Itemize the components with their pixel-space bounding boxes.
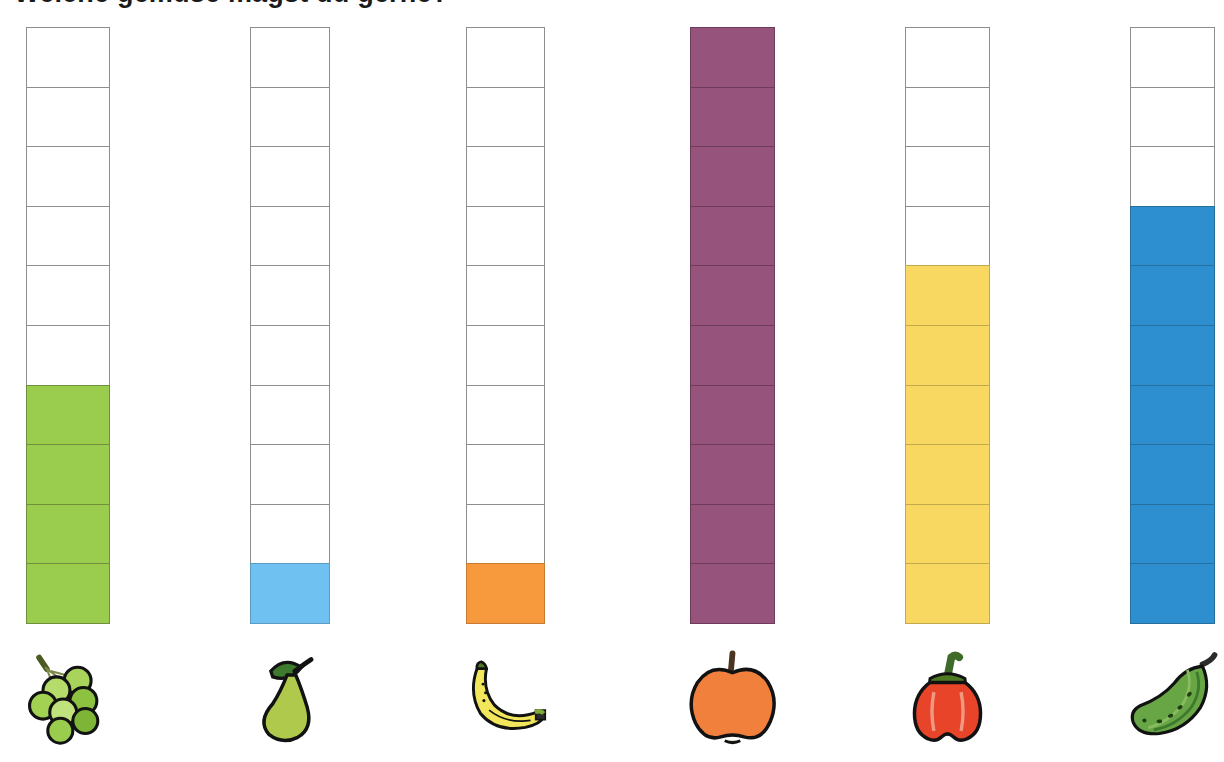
bar-cell-filled[interactable]	[690, 504, 775, 565]
bar-column-grapes[interactable]	[26, 27, 110, 633]
apple-icon	[682, 639, 783, 757]
bar-column-apple[interactable]	[690, 27, 775, 633]
bar-column-cucumber[interactable]	[1130, 27, 1215, 633]
bar-cell-empty[interactable]	[466, 385, 545, 446]
bar-cell-empty[interactable]	[250, 146, 330, 207]
pictograph-bar-chart	[0, 0, 1224, 762]
bar-cell-filled[interactable]	[905, 504, 990, 565]
bar-cell-empty[interactable]	[466, 206, 545, 267]
bar-stack	[26, 27, 110, 633]
bar-column-bell-pepper[interactable]	[905, 27, 990, 633]
bar-cell-empty[interactable]	[250, 206, 330, 267]
bar-column-banana[interactable]	[466, 27, 545, 633]
bar-cell-empty[interactable]	[26, 325, 110, 386]
bar-cell-filled[interactable]	[26, 385, 110, 446]
bar-cell-filled[interactable]	[905, 385, 990, 446]
bar-cell-empty[interactable]	[466, 27, 545, 88]
bar-stack	[690, 27, 775, 633]
bar-cell-filled[interactable]	[690, 385, 775, 446]
bar-cell-filled[interactable]	[1130, 206, 1215, 267]
bar-cell-empty[interactable]	[466, 325, 545, 386]
bar-cell-empty[interactable]	[250, 265, 330, 326]
bar-stack	[250, 27, 330, 633]
bar-cell-empty[interactable]	[905, 87, 990, 148]
bar-cell-empty[interactable]	[250, 444, 330, 505]
bar-cell-filled[interactable]	[905, 265, 990, 326]
bar-cell-empty[interactable]	[250, 27, 330, 88]
bar-cell-filled[interactable]	[690, 265, 775, 326]
bar-cell-empty[interactable]	[250, 87, 330, 148]
bar-cell-empty[interactable]	[26, 87, 110, 148]
bar-cell-filled[interactable]	[26, 444, 110, 505]
bar-cell-empty[interactable]	[466, 87, 545, 148]
bar-cell-empty[interactable]	[1130, 27, 1215, 88]
bar-cell-filled[interactable]	[1130, 444, 1215, 505]
bar-cell-empty[interactable]	[1130, 87, 1215, 148]
bar-stack	[1130, 27, 1215, 633]
bar-cell-filled[interactable]	[690, 444, 775, 505]
bar-column-pear[interactable]	[250, 27, 330, 633]
bar-cell-filled[interactable]	[690, 87, 775, 148]
bar-cell-empty[interactable]	[250, 504, 330, 565]
bar-cell-filled[interactable]	[905, 563, 990, 624]
pear-icon	[242, 639, 338, 757]
bar-stack	[466, 27, 545, 633]
bar-cell-filled[interactable]	[690, 146, 775, 207]
bar-cell-filled[interactable]	[1130, 265, 1215, 326]
bar-cell-filled[interactable]	[690, 206, 775, 267]
bar-cell-filled[interactable]	[690, 27, 775, 88]
grapes-icon	[18, 639, 118, 757]
bar-cell-empty[interactable]	[250, 385, 330, 446]
bar-cell-filled[interactable]	[26, 563, 110, 624]
bar-cell-filled[interactable]	[250, 563, 330, 624]
bar-cell-empty[interactable]	[26, 206, 110, 267]
bar-cell-filled[interactable]	[1130, 385, 1215, 446]
bar-cell-filled[interactable]	[26, 504, 110, 565]
bar-cell-empty[interactable]	[905, 206, 990, 267]
bar-cell-filled[interactable]	[905, 325, 990, 386]
bar-cell-empty[interactable]	[26, 265, 110, 326]
bar-cell-filled[interactable]	[905, 444, 990, 505]
bar-cell-empty[interactable]	[26, 27, 110, 88]
bar-cell-filled[interactable]	[1130, 325, 1215, 386]
bar-cell-empty[interactable]	[26, 146, 110, 207]
banana-icon	[458, 639, 553, 757]
bar-cell-empty[interactable]	[250, 325, 330, 386]
bar-cell-empty[interactable]	[466, 444, 545, 505]
bar-cell-filled[interactable]	[466, 563, 545, 624]
bar-stack	[905, 27, 990, 633]
bar-cell-filled[interactable]	[1130, 563, 1215, 624]
bar-cell-filled[interactable]	[690, 563, 775, 624]
bar-cell-empty[interactable]	[466, 504, 545, 565]
bar-cell-empty[interactable]	[466, 265, 545, 326]
bar-cell-filled[interactable]	[1130, 504, 1215, 565]
bar-cell-filled[interactable]	[690, 325, 775, 386]
bell-pepper-icon	[897, 639, 998, 757]
bar-cell-empty[interactable]	[905, 146, 990, 207]
bar-cell-empty[interactable]	[1130, 146, 1215, 207]
cucumber-icon	[1122, 639, 1223, 757]
bar-cell-empty[interactable]	[905, 27, 990, 88]
bar-cell-empty[interactable]	[466, 146, 545, 207]
